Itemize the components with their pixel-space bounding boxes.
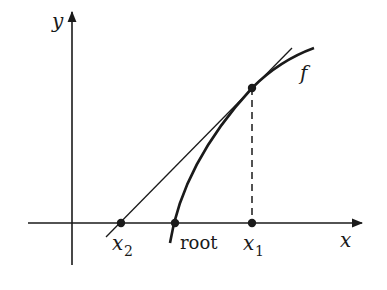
newton-method-diagram: y x f x 2 root x 1	[0, 0, 387, 290]
label-x1: x	[243, 231, 254, 255]
point-x2	[117, 219, 125, 227]
x-axis-label: x	[340, 228, 351, 252]
label-x1-subscript: 1	[255, 243, 264, 259]
label-x2-subscript: 2	[124, 243, 133, 259]
point-root	[171, 219, 179, 227]
label-x2: x	[112, 231, 123, 255]
point-x1	[248, 219, 256, 227]
label-root: root	[180, 232, 218, 253]
point-tangent	[248, 84, 256, 92]
curve-f	[170, 48, 314, 243]
y-axis-label: y	[51, 9, 64, 33]
curve-label-f: f	[298, 61, 311, 85]
